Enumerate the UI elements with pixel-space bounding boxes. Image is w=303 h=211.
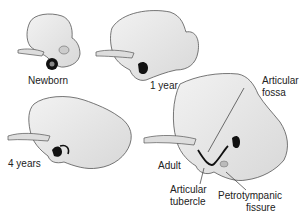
label-articular-fossa-2: fossa	[262, 87, 286, 98]
label-newborn: Newborn	[28, 75, 68, 86]
label-articular-tubercle-1: Articular	[170, 184, 207, 195]
newborn-bone	[18, 14, 80, 70]
label-articular-fossa-1: Articular	[262, 75, 299, 86]
label-articular-tubercle-2: tubercle	[170, 196, 206, 207]
label-petrotympanic-fissure-2: fissure	[246, 202, 275, 211]
label-adult: Adult	[158, 160, 181, 171]
label-one-year: 1 year	[150, 80, 178, 91]
bone-illustrations	[0, 0, 303, 211]
label-petrotympanic-fissure-1: Petrotympanic	[218, 190, 282, 201]
label-four-years: 4 years	[8, 158, 41, 169]
one-year-bone	[96, 11, 199, 81]
temporal-bone-diagram: Newborn 1 year 4 years Adult Articular f…	[0, 0, 303, 211]
